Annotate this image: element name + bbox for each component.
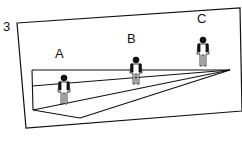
person-c-icon bbox=[197, 37, 209, 66]
label-c: C bbox=[197, 12, 206, 25]
label-a: A bbox=[55, 47, 64, 60]
person-a-icon bbox=[58, 75, 70, 104]
picture-frame bbox=[17, 8, 242, 128]
person-b-icon bbox=[130, 57, 142, 84]
label-b: B bbox=[127, 32, 136, 45]
perspective-illusion-figure: 3 A B C bbox=[0, 0, 242, 142]
panel-number: 3 bbox=[3, 20, 10, 33]
